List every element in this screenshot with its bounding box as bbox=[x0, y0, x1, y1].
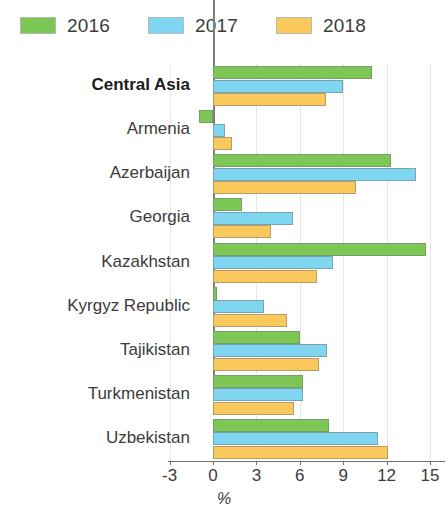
bar-azerbaijan-2016 bbox=[213, 154, 391, 167]
x-tick-label-15: 15 bbox=[410, 466, 448, 486]
x-axis-title: % bbox=[0, 490, 448, 508]
bar-armenia-2018 bbox=[213, 137, 232, 150]
category-label-georgia: Georgia bbox=[0, 207, 190, 227]
x-tick-label-6: 6 bbox=[280, 466, 320, 486]
x-tick-mark-0 bbox=[213, 461, 214, 465]
x-tick-mark-6 bbox=[300, 461, 301, 465]
category-label-central-asia: Central Asia bbox=[0, 75, 190, 95]
bar-kyrgyz-republic-2018 bbox=[213, 314, 287, 327]
bar-armenia-2016 bbox=[199, 110, 213, 123]
x-tick-label-3: 3 bbox=[236, 466, 276, 486]
bar-central-asia-2016 bbox=[213, 66, 372, 79]
category-label-azerbaijan: Azerbaijan bbox=[0, 163, 190, 183]
bar-chart: % Central AsiaArmeniaAzerbaijanGeorgiaKa… bbox=[0, 0, 448, 513]
bar-uzbekistan-2016 bbox=[213, 419, 329, 432]
bar-central-asia-2017 bbox=[213, 80, 343, 93]
bar-turkmenistan-2016 bbox=[213, 375, 303, 388]
bar-georgia-2018 bbox=[213, 225, 271, 238]
bar-uzbekistan-2017 bbox=[213, 432, 378, 445]
category-label-tajikistan: Tajikistan bbox=[0, 340, 190, 360]
bar-georgia-2017 bbox=[213, 212, 293, 225]
bar-kyrgyz-republic-2016 bbox=[213, 287, 217, 300]
category-label-kyrgyz-republic: Kyrgyz Republic bbox=[0, 296, 190, 316]
x-axis-line bbox=[168, 461, 445, 462]
category-label-uzbekistan: Uzbekistan bbox=[0, 428, 190, 448]
bar-turkmenistan-2017 bbox=[213, 388, 303, 401]
bar-tajikistan-2016 bbox=[213, 331, 300, 344]
category-label-armenia: Armenia bbox=[0, 119, 190, 139]
x-tick-mark-9 bbox=[343, 461, 344, 465]
x-tick-label-9: 9 bbox=[323, 466, 363, 486]
bar-azerbaijan-2017 bbox=[213, 168, 416, 181]
bar-central-asia-2018 bbox=[213, 93, 326, 106]
x-tick-mark-3 bbox=[256, 461, 257, 465]
x-tick-mark--3 bbox=[170, 461, 171, 465]
x-tick-mark-12 bbox=[387, 461, 388, 465]
category-label-kazakhstan: Kazakhstan bbox=[0, 252, 190, 272]
bar-tajikistan-2018 bbox=[213, 358, 319, 371]
x-tick-mark-15 bbox=[430, 461, 431, 465]
bar-kazakhstan-2016 bbox=[213, 243, 426, 256]
bar-kazakhstan-2018 bbox=[213, 270, 317, 283]
bar-tajikistan-2017 bbox=[213, 344, 327, 357]
category-label-turkmenistan: Turkmenistan bbox=[0, 384, 190, 404]
bar-kazakhstan-2017 bbox=[213, 256, 333, 269]
x-tick-label-0: 0 bbox=[193, 466, 233, 486]
x-tick-label-12: 12 bbox=[367, 466, 407, 486]
x-tick-label--3: -3 bbox=[150, 466, 190, 486]
bar-azerbaijan-2018 bbox=[213, 181, 356, 194]
bar-uzbekistan-2018 bbox=[213, 446, 388, 459]
bar-kyrgyz-republic-2017 bbox=[213, 300, 264, 313]
bar-armenia-2017 bbox=[213, 124, 225, 137]
bar-turkmenistan-2018 bbox=[213, 402, 294, 415]
bar-georgia-2016 bbox=[213, 198, 242, 211]
